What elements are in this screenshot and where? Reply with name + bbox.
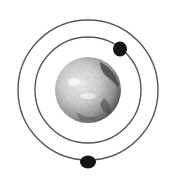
diagram-canvas: [0, 0, 172, 183]
moon-bottom: [80, 156, 96, 169]
moon-upper-right: [113, 42, 127, 57]
planet: [55, 57, 121, 123]
planet-orbit-diagram: [0, 0, 172, 183]
